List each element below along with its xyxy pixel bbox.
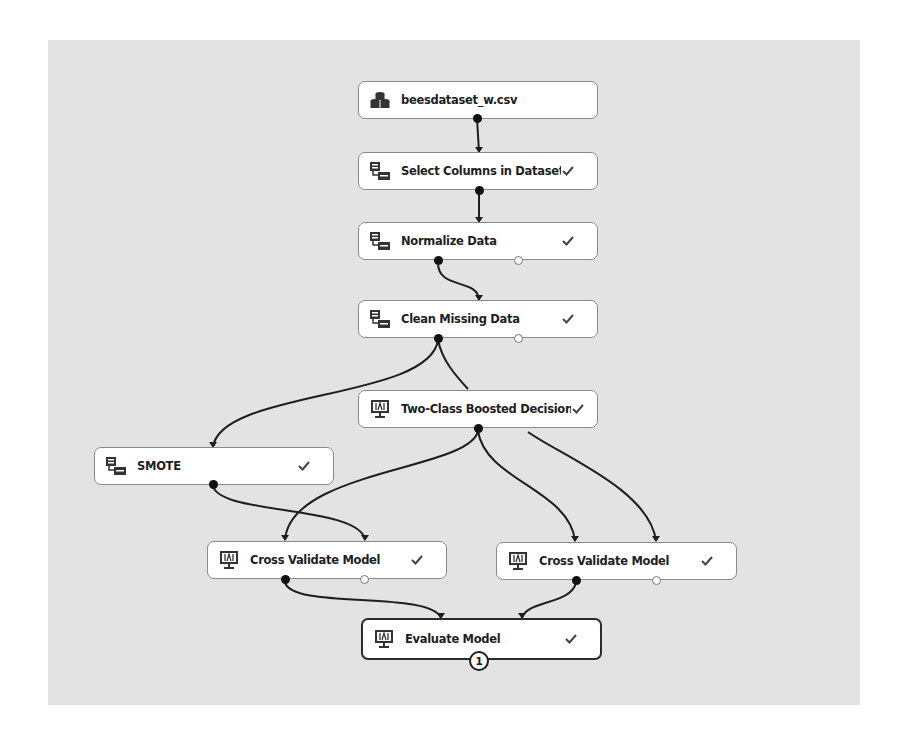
output-port-unconnected[interactable]	[514, 256, 523, 265]
node-label: SMOTE	[137, 459, 297, 473]
node-label: Evaluate Model	[405, 632, 564, 646]
node-label: Clean Missing Data	[401, 312, 561, 326]
data-transform-icon	[369, 161, 391, 181]
output-port-unconnected[interactable]	[514, 334, 523, 343]
node-label: Cross Validate Model	[539, 554, 700, 568]
check-icon	[561, 312, 575, 326]
node-label: Two-Class Boosted Decision...	[401, 402, 571, 416]
node-clean-missing-data[interactable]: Clean Missing Data	[358, 300, 598, 338]
output-port[interactable]	[281, 575, 290, 584]
node-cross-validate-model-1[interactable]: Cross Validate Model	[207, 541, 447, 579]
output-port-unconnected[interactable]	[360, 575, 369, 584]
data-transform-icon	[369, 309, 391, 329]
check-icon	[700, 554, 714, 568]
experiment-canvas[interactable]	[48, 40, 860, 705]
check-icon	[571, 402, 585, 416]
output-port[interactable]	[434, 334, 443, 343]
output-port[interactable]	[473, 114, 482, 123]
output-port[interactable]	[572, 576, 581, 585]
output-port[interactable]	[474, 424, 483, 433]
node-two-class-boosted-decision-tree[interactable]: Two-Class Boosted Decision...	[358, 390, 598, 428]
node-label: Cross Validate Model	[250, 553, 410, 567]
node-label: Select Columns in Dataset	[401, 164, 561, 178]
check-icon	[561, 164, 575, 178]
node-label: beesdataset_w.csv	[401, 93, 597, 107]
check-icon	[561, 234, 575, 248]
model-monitor-icon	[369, 399, 391, 419]
data-transform-icon	[369, 231, 391, 251]
model-monitor-icon	[218, 550, 240, 570]
output-port[interactable]	[475, 186, 484, 195]
data-transform-icon	[105, 456, 127, 476]
output-count-badge[interactable]: 1	[469, 651, 489, 671]
node-normalize-data[interactable]: Normalize Data	[358, 222, 598, 260]
node-cross-validate-model-2[interactable]: Cross Validate Model	[496, 542, 737, 580]
database-icon	[369, 90, 391, 110]
model-monitor-icon	[373, 629, 395, 649]
output-port[interactable]	[434, 256, 443, 265]
check-icon	[564, 632, 578, 646]
check-icon	[410, 553, 424, 567]
output-port[interactable]	[209, 480, 218, 489]
node-select-columns[interactable]: Select Columns in Dataset	[358, 152, 598, 190]
output-port-unconnected[interactable]	[652, 576, 661, 585]
check-icon	[297, 459, 311, 473]
model-monitor-icon	[507, 551, 529, 571]
node-label: Normalize Data	[401, 234, 561, 248]
